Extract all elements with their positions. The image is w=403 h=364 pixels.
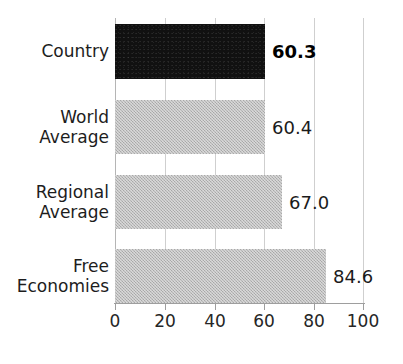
bar-world-average[interactable]: [115, 100, 265, 154]
x-tick-label-20: 20: [154, 311, 176, 331]
bar-country[interactable]: [115, 24, 265, 79]
x-tick-20: [165, 303, 166, 310]
bar-regional-average[interactable]: [115, 175, 282, 229]
category-label-regional-average: Regional Average: [36, 182, 109, 222]
x-tick-0: [115, 303, 116, 310]
category-label-country: Country: [41, 41, 109, 61]
x-tick-label-100: 100: [347, 311, 379, 331]
category-label-world-average: World Average: [39, 107, 109, 147]
x-tick-label-40: 40: [204, 311, 226, 331]
value-label-free-economies: 84.6: [333, 266, 373, 287]
value-label-world-average: 60.4: [272, 117, 312, 138]
x-axis-line: [114, 303, 365, 304]
bar-chart: Country World Average Regional Average F…: [0, 0, 403, 364]
x-tick-label-60: 60: [253, 311, 275, 331]
category-label-free-economies: Free Economies: [17, 256, 109, 296]
x-tick-40: [215, 303, 216, 310]
x-tick-100: [363, 303, 364, 310]
x-tick-60: [264, 303, 265, 310]
x-tick-label-80: 80: [303, 311, 325, 331]
gridline-100: [363, 18, 364, 303]
bar-free-economies[interactable]: [115, 249, 326, 303]
value-label-regional-average: 67.0: [289, 192, 329, 213]
x-tick-label-0: 0: [110, 311, 121, 331]
x-tick-80: [314, 303, 315, 310]
value-label-country: 60.3: [272, 41, 316, 62]
